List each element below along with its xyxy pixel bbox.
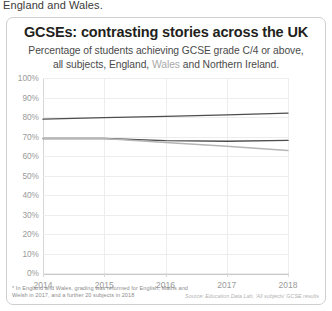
chart-subtitle: Percentage of students achieving GCSE gr…	[7, 44, 325, 71]
series-lines	[43, 78, 288, 273]
x-tick-mark	[288, 273, 289, 277]
x-tick-mark	[43, 273, 44, 277]
y-tick-label: 80%	[6, 112, 39, 122]
y-tick-label: 90%	[6, 93, 39, 103]
x-tick-mark	[227, 273, 228, 277]
y-tick-label: 0%	[6, 268, 39, 278]
subtitle-line-2-prefix: all subjects, England,	[53, 59, 152, 70]
y-tick-label: 20%	[6, 229, 39, 239]
subtitle-line-1: Percentage of students achieving GCSE gr…	[28, 45, 303, 56]
y-tick-label: 50%	[6, 171, 39, 181]
chart-title: GCSEs: contrasting stories across the UK	[7, 24, 325, 40]
chart-source-attribution: Source: Education Data Lab, 'All subject…	[185, 293, 319, 299]
chart-page: England and Wales. GCSEs: contrasting st…	[0, 0, 332, 311]
y-tick-label: 60%	[6, 151, 39, 161]
gridline-vertical	[288, 78, 289, 273]
y-tick-label: 30%	[6, 210, 39, 220]
y-tick-label: 100%	[6, 73, 39, 83]
plot-area: 0%10%20%30%40%50%60%70%80%90%100% 201420…	[43, 78, 288, 273]
subtitle-line-2-suffix: and Northern Ireland.	[180, 59, 279, 70]
x-tick-label: 2018	[279, 280, 298, 290]
x-tick-mark	[104, 273, 105, 277]
subtitle-wales-highlight: Wales	[152, 59, 180, 70]
series-line-northern-ireland	[43, 113, 288, 119]
x-tick-mark	[166, 273, 167, 277]
chart-footnote: * In England and Wales, grading was refo…	[12, 285, 202, 299]
chart-card: GCSEs: contrasting stories across the UK…	[6, 17, 326, 305]
y-tick-label: 10%	[6, 249, 39, 259]
x-tick-label: 2017	[217, 280, 236, 290]
y-tick-label: 40%	[6, 190, 39, 200]
preceding-paragraph-text: England and Wales.	[3, 0, 303, 12]
y-tick-label: 70%	[6, 132, 39, 142]
